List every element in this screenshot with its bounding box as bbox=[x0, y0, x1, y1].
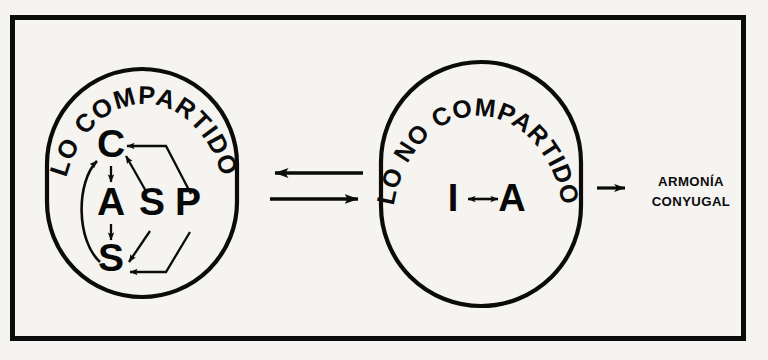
node-letter-i: I bbox=[448, 177, 459, 219]
edge-smid-to-sbottom bbox=[129, 231, 150, 262]
shared-group: LO COMPARTIDO C A S S P bbox=[44, 69, 244, 297]
outcome-label-line1: ARMONÍA bbox=[658, 174, 724, 189]
diagram-root: LO COMPARTIDO C A S S P bbox=[0, 0, 768, 360]
not-shared-group-arc-label: LO NO COMPARTIDO bbox=[371, 92, 585, 207]
not-shared-group: LO NO COMPARTIDO I A bbox=[371, 62, 585, 306]
node-letter-s-bottom: S bbox=[98, 236, 124, 279]
between-groups-connectors bbox=[270, 173, 363, 199]
outcome-label-line2: CONYUGAL bbox=[652, 194, 731, 209]
node-letter-a-right: A bbox=[498, 177, 525, 219]
edge-smid-to-c bbox=[126, 156, 147, 193]
outcome-block: ARMONÍA CONYUGAL bbox=[597, 174, 730, 209]
edge-p-to-s bbox=[130, 232, 190, 272]
node-letter-a: A bbox=[97, 180, 125, 223]
node-letter-c: C bbox=[97, 122, 125, 165]
diagram-canvas: LO COMPARTIDO C A S S P bbox=[0, 0, 768, 360]
